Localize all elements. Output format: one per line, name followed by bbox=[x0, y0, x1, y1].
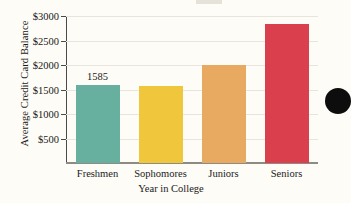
y-axis-tick bbox=[61, 65, 66, 66]
bar-seniors[interactable] bbox=[265, 24, 309, 163]
y-axis-title: Average Credit Card Balance bbox=[19, 4, 30, 164]
plot-area: $500$1000$1500$2000$2500$30001585 bbox=[66, 16, 318, 163]
y-axis-tick-label: $3000 bbox=[33, 11, 59, 22]
title-smudge-artifact bbox=[196, 0, 222, 4]
y-axis-tick-label: $1500 bbox=[33, 84, 59, 95]
bar-sophomores[interactable] bbox=[139, 86, 183, 163]
y-axis-tick-label: $2000 bbox=[33, 60, 59, 71]
y-axis-tick-label: $1000 bbox=[33, 109, 59, 120]
x-axis-category-label: Juniors bbox=[208, 168, 238, 179]
gridline bbox=[66, 16, 318, 17]
y-axis-tick bbox=[61, 90, 66, 91]
x-axis-category-label: Sophomores bbox=[134, 168, 187, 179]
y-axis-tick bbox=[61, 114, 66, 115]
bar-value-label: 1585 bbox=[87, 71, 108, 82]
y-axis-tick bbox=[61, 139, 66, 140]
page-dot-artifact bbox=[325, 88, 351, 114]
bar-juniors[interactable] bbox=[202, 65, 246, 163]
x-axis-category-label: Freshmen bbox=[77, 168, 118, 179]
y-axis-tick bbox=[61, 41, 66, 42]
x-axis-category-label: Seniors bbox=[271, 168, 303, 179]
y-axis-tick bbox=[61, 16, 66, 17]
y-axis-tick-label: $2500 bbox=[33, 35, 59, 46]
x-axis-title: Year in College bbox=[0, 183, 342, 194]
bar-freshmen[interactable]: 1585 bbox=[76, 85, 120, 163]
y-axis-tick-label: $500 bbox=[38, 133, 59, 144]
